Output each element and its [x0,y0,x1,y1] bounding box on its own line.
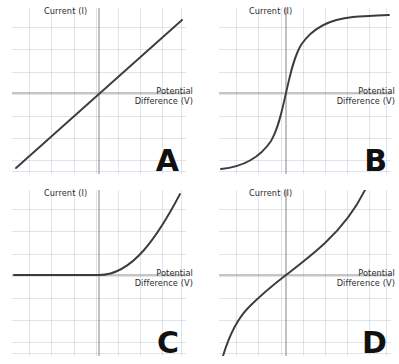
panel-d-curve [223,190,365,356]
panel-b: Current (I) Potential Difference (V) B [199,0,399,182]
panel-a-letter: A [156,146,179,176]
panel-a: Current (I) Potential Difference (V) A [0,0,199,182]
panel-c-letter: C [157,328,179,358]
panel-b-letter: B [364,146,387,176]
panel-d-letter: D [362,328,387,358]
panel-c: Current (I) Potential Difference (V) C [0,182,199,364]
panel-c-curve [14,194,180,275]
iv-characteristics-figure: Current (I) Potential Difference (V) A C… [0,0,399,364]
panel-d: Current (I) Potential Difference (V) D [199,182,399,364]
